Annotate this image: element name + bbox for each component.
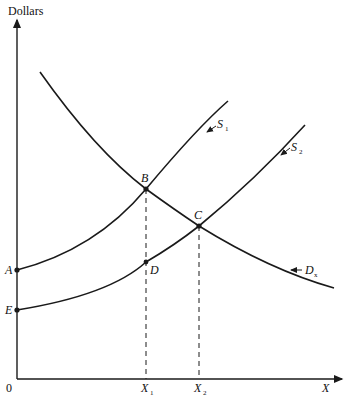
demand-curve-dx (40, 72, 334, 288)
svg-text:S: S (291, 140, 297, 154)
point-e-label: E (4, 303, 13, 317)
svg-text:x: x (314, 271, 318, 279)
point-a-label: A (4, 263, 13, 277)
supply-curve-s1 (17, 101, 228, 270)
point-d-label: D (149, 263, 159, 277)
point-c (196, 223, 201, 228)
s2-label: S 2 (291, 140, 303, 156)
dx-label: D x (304, 263, 318, 279)
svg-text:1: 1 (150, 389, 154, 397)
point-b (143, 186, 148, 191)
point-b-label: B (141, 171, 149, 185)
supply-curve-s2 (17, 125, 305, 310)
svg-text:2: 2 (299, 148, 303, 156)
svg-text:D: D (304, 263, 314, 277)
svg-text:2: 2 (203, 389, 207, 397)
svg-text:X: X (140, 381, 149, 395)
x1-tick-label: X 1 (140, 381, 154, 397)
point-d (144, 260, 149, 265)
svg-text:X: X (193, 381, 202, 395)
y-axis-label: Dollars (8, 4, 44, 18)
point-c-label: C (194, 208, 203, 222)
svg-text:S: S (217, 117, 223, 131)
svg-text:1: 1 (225, 125, 229, 133)
point-a (14, 267, 19, 272)
point-e (14, 307, 19, 312)
origin-label: 0 (6, 381, 12, 395)
s1-label: S 1 (217, 117, 229, 133)
x-axis-label: X (321, 381, 330, 395)
x2-tick-label: X 2 (193, 381, 207, 397)
s1-label-arrow (207, 126, 216, 132)
supply-demand-diagram: Dollars X 0 A E B C D S 1 S 2 D x X 1 X … (0, 0, 347, 397)
